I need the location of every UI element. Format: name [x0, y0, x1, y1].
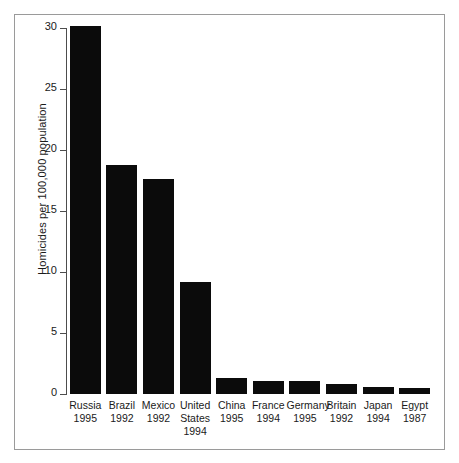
x-axis-category-label: Japan1994 — [360, 399, 397, 425]
y-axis-tick-mark — [60, 272, 66, 273]
y-axis-tick-label: 5 — [51, 325, 57, 337]
plot-area: 051015202530 — [66, 28, 433, 394]
bar-series — [67, 28, 433, 394]
chart-figure: Homicides per 100,000 population 0510152… — [14, 14, 445, 450]
bar — [363, 387, 394, 394]
category-name: China — [213, 399, 250, 412]
y-axis-tick-mark — [60, 150, 66, 151]
y-axis-tick-mark — [60, 211, 66, 212]
category-name: Britain — [323, 399, 360, 412]
category-name: States — [177, 412, 214, 425]
y-axis-tick-label: 10 — [45, 264, 57, 276]
y-axis-tick-mark — [60, 28, 66, 29]
y-axis-tick-label: 20 — [45, 142, 57, 154]
y-axis-tick-label: 25 — [45, 81, 57, 93]
y-axis-tick-label: 30 — [45, 20, 57, 32]
x-axis-category-label: Britain1992 — [323, 399, 360, 425]
category-year: 1994 — [250, 412, 287, 425]
category-year: 1994 — [177, 425, 214, 438]
bar — [180, 282, 211, 394]
category-year: 1987 — [396, 412, 433, 425]
bar — [399, 388, 430, 394]
y-axis-tick-mark — [60, 394, 66, 395]
x-axis-category-label: Mexico1992 — [140, 399, 177, 425]
category-name: Germany — [287, 399, 324, 412]
x-axis-category-label: Egypt1987 — [396, 399, 433, 425]
bar — [289, 381, 320, 394]
y-axis-title: Homicides per 100,000 population — [36, 84, 48, 294]
x-axis-category-label: Germany1995 — [287, 399, 324, 425]
y-axis-tick-mark — [60, 333, 66, 334]
category-year: 1995 — [287, 412, 324, 425]
category-year: 1995 — [67, 412, 104, 425]
x-axis-category-label: France1994 — [250, 399, 287, 425]
bar — [253, 381, 284, 394]
category-name: Brazil — [104, 399, 141, 412]
category-name: United — [177, 399, 214, 412]
bar — [70, 26, 101, 394]
x-axis-category-label: UnitedStates1994 — [177, 399, 214, 438]
category-name: Japan — [360, 399, 397, 412]
category-year: 1992 — [140, 412, 177, 425]
bar — [216, 378, 247, 394]
category-year: 1992 — [104, 412, 141, 425]
category-year: 1995 — [213, 412, 250, 425]
bar — [326, 384, 357, 394]
category-name: Egypt — [396, 399, 433, 412]
category-year: 1992 — [323, 412, 360, 425]
category-name: France — [250, 399, 287, 412]
y-axis-tick-label: 0 — [51, 386, 57, 398]
x-axis-category-label: Russia1995 — [67, 399, 104, 425]
bar — [143, 179, 174, 394]
x-axis-category-labels: Russia1995Brazil1992Mexico1992UnitedStat… — [67, 399, 434, 449]
x-axis-category-label: Brazil1992 — [104, 399, 141, 425]
category-name: Mexico — [140, 399, 177, 412]
category-year: 1994 — [360, 412, 397, 425]
category-name: Russia — [67, 399, 104, 412]
y-axis-tick-mark — [60, 89, 66, 90]
y-axis-tick-label: 15 — [45, 203, 57, 215]
x-axis-category-label: China1995 — [213, 399, 250, 425]
bar — [106, 165, 137, 394]
